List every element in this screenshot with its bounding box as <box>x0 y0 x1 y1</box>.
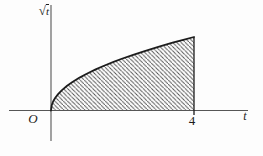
x-axis-label: t <box>240 110 250 123</box>
plot-canvas <box>0 0 263 156</box>
x-tick-label-4: 4 <box>186 114 198 127</box>
y-axis-label: √t <box>26 4 49 18</box>
radical-sign: √ <box>39 3 46 18</box>
figure: √t O 4 t <box>0 0 263 156</box>
shaded-region <box>51 37 194 111</box>
origin-label: O <box>27 112 39 125</box>
y-axis-variable: t <box>46 5 49 17</box>
